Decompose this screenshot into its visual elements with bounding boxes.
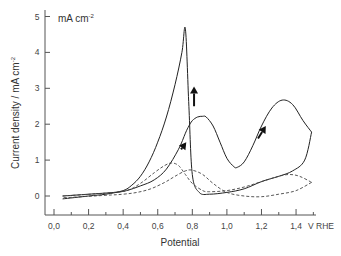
y-tick-label: 1 [35, 155, 40, 165]
arrow-shaft [181, 148, 182, 150]
x-tick-label: 1,2 [256, 221, 268, 231]
scan-direction-arrows [179, 87, 266, 151]
axes [45, 10, 316, 215]
x-tick-label: 0,6 [152, 221, 164, 231]
y-axis-label: Current density / mA cm-2 [10, 56, 21, 169]
y-ticks: 012345 [35, 12, 50, 202]
solid-curve-forward [63, 100, 312, 196]
arrow-head-icon [190, 87, 198, 94]
arrow-head-icon [179, 142, 186, 150]
y-tick-label: 2 [35, 119, 40, 129]
x-tick-label: 0,0 [48, 221, 60, 231]
x-tick-label: 0,8 [186, 221, 198, 231]
y-tick-label: 3 [35, 83, 40, 93]
y-tick-label: 5 [35, 12, 40, 22]
y-tick-label: 0 [35, 191, 40, 201]
x-tick-label: 0,2 [83, 221, 95, 231]
x-ticks: 0,00,20,40,60,81,01,21,4 [48, 209, 313, 231]
dashed-curve-forward [63, 163, 312, 196]
x-tick-label: 1,0 [221, 221, 233, 231]
unit-annotation: mA cm-2 [58, 13, 95, 24]
x-axis-label: Potential [161, 237, 200, 248]
y-tick-label: 4 [35, 47, 40, 57]
x-tick-label: 1,4 [290, 221, 302, 231]
x-axis-unit: V RHE [308, 221, 334, 231]
solid-curve-reverse [63, 27, 312, 199]
x-tick-label: 0,4 [117, 221, 129, 231]
data-series [63, 27, 312, 199]
cyclic-voltammogram-chart: 012345 0,00,20,40,60,81,01,21,4 mA cm-2 … [0, 0, 341, 256]
